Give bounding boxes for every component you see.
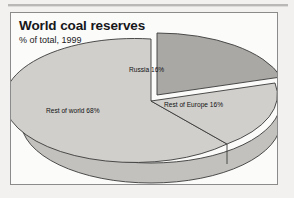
scan-artifact-rule-shadow (8, 6, 288, 7)
pie-label-rest-of-world: Rest of world 68% (46, 107, 100, 114)
pie-chart-graphic (11, 13, 277, 184)
chart-frame: World coal reserves % of total, 1999 Rus… (10, 12, 278, 185)
pie-label-russia: Russia 16% (129, 66, 164, 73)
pie-label-rest-of-europe: Rest of Europe 16% (164, 101, 223, 108)
